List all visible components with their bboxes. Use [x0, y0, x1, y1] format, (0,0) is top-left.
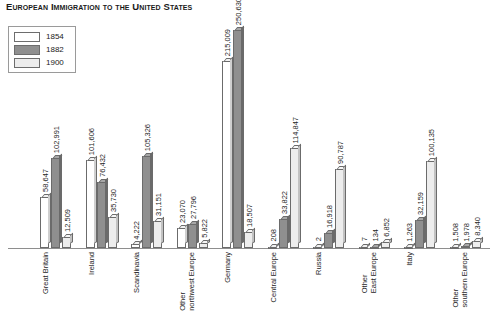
bar-rect	[450, 247, 459, 249]
bar-1900: 31,151	[153, 221, 162, 248]
bar-rect	[199, 243, 208, 248]
bar-1900: 100,135	[426, 161, 435, 248]
x-axis-baseline	[8, 248, 490, 249]
bar-rect	[426, 161, 435, 248]
bar-rect	[233, 30, 242, 248]
bar-rect	[313, 247, 322, 249]
bar-1854: 23,070	[177, 228, 186, 248]
bar-1854: 1,508	[450, 247, 459, 249]
bar-rect	[222, 61, 231, 248]
x-axis-label: Other southern Europe	[452, 252, 469, 307]
bar-rect	[86, 160, 95, 248]
bar-group: 216,91890,787	[313, 169, 348, 248]
bar-rect	[324, 233, 333, 248]
bar-rect	[359, 247, 368, 249]
bar-rect	[279, 219, 288, 248]
bar-value-label: 114,847	[291, 117, 300, 144]
bar-1882: 16,918	[324, 233, 333, 248]
bar-rect	[40, 197, 49, 248]
bar-group: 1,26332,159100,135	[404, 161, 439, 248]
bar-value-label: 31,151	[154, 193, 163, 216]
x-axis-label: Other East Europe	[361, 252, 378, 293]
bar-value-label: 16,918	[325, 205, 334, 228]
bar-rect	[142, 156, 151, 248]
bar-1854: 101,606	[86, 160, 95, 248]
bar-value-label: 90,787	[336, 141, 345, 164]
bar-value-label: 7	[360, 237, 369, 241]
bar-rect	[472, 241, 481, 248]
bar-1900: 5,822	[199, 243, 208, 248]
bar-value-label: 1,263	[405, 223, 414, 242]
bar-1854: 208	[268, 247, 277, 249]
bar-value-label: 76,432	[98, 154, 107, 177]
bar-1900: 8,340	[472, 241, 481, 248]
immigration-bar-chart: European Immigration to the United State…	[0, 0, 494, 315]
bar-rect	[108, 217, 117, 248]
bar-value-label: 1,978	[462, 223, 471, 242]
bar-rect	[177, 228, 186, 248]
bar-1900: 18,507	[244, 232, 253, 248]
bar-1882: 105,326	[142, 156, 151, 248]
bar-1882: 250,630	[233, 30, 242, 248]
bar-rect	[268, 247, 277, 249]
bar-value-label: 8,340	[473, 217, 482, 236]
bar-group: 101,60676,43235,730	[86, 160, 121, 248]
bar-value-label: 102,991	[52, 126, 61, 153]
bar-1900: 35,730	[108, 217, 117, 248]
bar-value-label: 35,730	[109, 189, 118, 212]
bar-1900: 90,787	[335, 169, 344, 248]
bar-rect	[188, 224, 197, 248]
x-axis-label: Central Europe	[270, 252, 279, 302]
bar-value-label: 208	[269, 229, 278, 242]
bar-rect	[51, 158, 60, 248]
x-axis-label: Ireland	[88, 252, 97, 275]
bar-1882: 32,159	[415, 220, 424, 248]
bar-group: 71346,852	[359, 242, 394, 248]
bar-value-label: 58,647	[41, 169, 50, 192]
bar-1854: 2	[313, 247, 322, 249]
bar-rect	[381, 242, 390, 248]
x-axis-label: Russia	[315, 252, 324, 275]
bar-value-label: 33,822	[280, 191, 289, 214]
bar-1854: 1,263	[404, 247, 413, 249]
bar-1854: 7	[359, 247, 368, 249]
bar-1882: 1,978	[461, 246, 470, 248]
bar-value-label: 215,009	[223, 29, 232, 56]
bar-value-label: 18,507	[245, 204, 254, 227]
bar-rect	[335, 169, 344, 248]
bar-1882: 76,432	[97, 182, 106, 248]
bar-value-label: 27,796	[189, 196, 198, 219]
bar-value-label: 4,222	[132, 221, 141, 240]
bar-group: 1,5081,9788,340	[450, 241, 485, 248]
bar-value-label: 12,509	[63, 209, 72, 232]
bar-rect	[153, 221, 162, 248]
x-axis-label: Great Britain	[42, 252, 51, 294]
bar-value-label: 2	[314, 237, 323, 241]
bar-1882: 33,822	[279, 219, 288, 248]
bar-1882: 102,991	[51, 158, 60, 248]
bar-value-label: 32,159	[416, 192, 425, 215]
bar-1900: 6,852	[381, 242, 390, 248]
bar-1854: 4,222	[131, 244, 140, 248]
bar-value-label: 1,508	[451, 223, 460, 242]
x-axis-label: Scandinavia	[133, 252, 142, 293]
bar-1900: 114,847	[290, 148, 299, 248]
bar-value-label: 5,822	[200, 219, 209, 238]
bar-rect	[244, 232, 253, 248]
x-axis-label: Germany	[224, 252, 233, 283]
bar-value-label: 6,852	[382, 218, 391, 237]
bar-rect	[290, 148, 299, 248]
bar-rect	[370, 247, 379, 249]
bar-value-label: 101,606	[87, 128, 96, 155]
bar-value-label: 134	[371, 229, 380, 242]
bar-group: 4,222105,32631,151	[131, 156, 166, 248]
bar-rect	[461, 246, 470, 248]
bar-value-label: 100,135	[427, 129, 436, 156]
bar-value-label: 105,326	[143, 124, 152, 151]
bar-group: 20833,822114,847	[268, 148, 303, 248]
bar-1882: 134	[370, 247, 379, 249]
bar-rect	[415, 220, 424, 248]
bar-rect	[131, 244, 140, 248]
bar-rect	[404, 247, 413, 249]
bar-1882: 27,796	[188, 224, 197, 248]
